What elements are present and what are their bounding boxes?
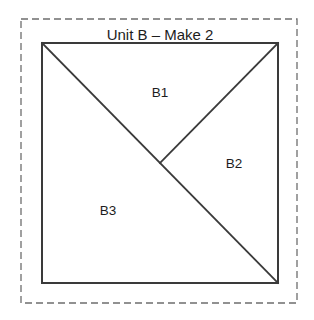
diagram-canvas: Unit B – Make 2 B1 B2 B3	[0, 0, 314, 320]
patch-label-b2: B2	[226, 156, 243, 171]
quilt-unit-diagram: Unit B – Make 2 B1 B2 B3	[0, 0, 314, 320]
patch-label-b1: B1	[152, 85, 169, 100]
patch-label-b3: B3	[100, 203, 117, 218]
page-title: Unit B – Make 2	[107, 26, 214, 43]
